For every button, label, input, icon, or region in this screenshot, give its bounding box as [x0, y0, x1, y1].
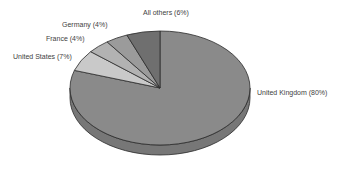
pie-slice-label-france: France (4%)	[46, 34, 85, 43]
pie-slice-label-germany: Germany (4%)	[62, 20, 108, 29]
pie-slice-label-united-kingdom: United Kingdom (80%)	[257, 88, 327, 97]
pie-slice-label-all-others: All others (6%)	[143, 8, 189, 17]
pie-geometry	[70, 31, 250, 155]
pie-chart: All others (6%) Germany (4%) France (4%)…	[0, 0, 339, 176]
pie-slice-label-united-states: United States (7%)	[13, 52, 72, 61]
